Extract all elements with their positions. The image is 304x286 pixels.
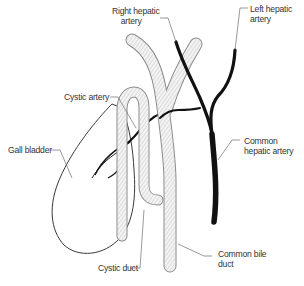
leader-right-hepatic-artery bbox=[160, 18, 176, 42]
label-left-hepatic-artery: Left hepatic artery bbox=[250, 4, 292, 24]
leader-cystic-duct bbox=[130, 210, 144, 268]
label-cystic-artery: Cystic artery bbox=[64, 92, 109, 102]
label-gall-bladder: Gall bladder bbox=[8, 145, 52, 155]
leader-common-hepatic-artery bbox=[218, 140, 240, 160]
label-cystic-duct: Cystic duct bbox=[98, 263, 138, 273]
leader-common-bile-duct bbox=[178, 244, 212, 256]
label-common-bile-duct: Common bile duct bbox=[218, 249, 266, 269]
label-common-hepatic-artery: Common hepatic artery bbox=[244, 136, 293, 156]
common-hepatic-artery bbox=[212, 134, 216, 222]
diagram-canvas: Right hepatic artery Left hepatic artery… bbox=[0, 0, 304, 286]
label-right-hepatic-artery: Right hepatic artery bbox=[112, 6, 160, 26]
leader-left-hepatic-artery bbox=[235, 8, 248, 50]
left-hepatic-artery bbox=[211, 50, 235, 134]
